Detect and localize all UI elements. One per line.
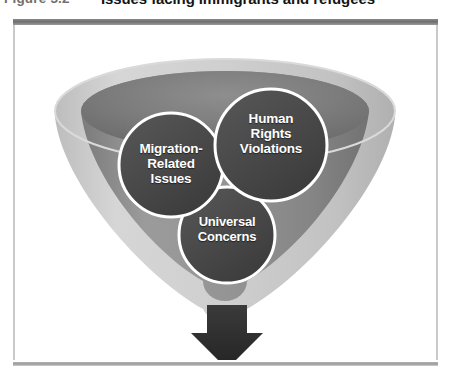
frame-right-rule bbox=[436, 25, 438, 360]
figure-number-label: Figure 3.2 bbox=[4, 0, 70, 6]
frame-bottom-rule bbox=[13, 362, 438, 366]
funnel-diagram: Migration- Related Issues Human Rights V… bbox=[15, 25, 436, 360]
figure-title: Issues facing immigrants and refugees bbox=[101, 0, 375, 7]
figure-caption: Figure 3.2 Issues facing immigrants and … bbox=[0, 0, 453, 13]
bubble-human-rights-violations bbox=[215, 89, 327, 201]
funnel-diagram-svg bbox=[15, 25, 436, 360]
figure-frame: Migration- Related Issues Human Rights V… bbox=[13, 19, 438, 366]
down-arrow-icon bbox=[191, 305, 263, 360]
bubble-migration-related-issues bbox=[119, 113, 223, 217]
